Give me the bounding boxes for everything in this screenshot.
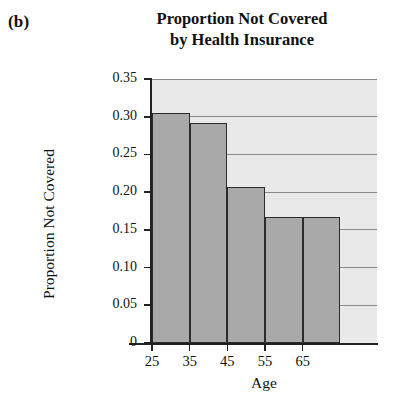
x-tick-label: 25	[132, 353, 172, 370]
y-tick-label: 0	[130, 334, 137, 350]
y-tick-label: 0.10	[113, 259, 138, 275]
y-tick	[144, 342, 151, 344]
y-tick	[144, 267, 151, 269]
x-axis-label: Age	[151, 374, 377, 392]
y-tick	[144, 116, 151, 118]
y-tick-label: 0.15	[113, 221, 138, 237]
x-tick-label: 65	[283, 353, 323, 370]
x-tick	[264, 343, 266, 351]
y-tick	[144, 191, 151, 193]
bar-series	[151, 79, 377, 343]
y-tick	[144, 78, 151, 80]
chart-title: Proportion Not Covered by Health Insuran…	[96, 8, 388, 50]
x-tick	[189, 343, 191, 351]
x-tick	[227, 343, 229, 351]
x-tick	[151, 343, 153, 351]
bar-45	[227, 187, 265, 343]
chart-title-line-2: by Health Insurance	[96, 29, 388, 50]
y-tick	[144, 304, 151, 306]
y-tick-label: 0.05	[113, 296, 138, 312]
x-tick-label: 35	[170, 353, 210, 370]
y-tick-label: 0.20	[113, 183, 138, 199]
bar-35	[190, 123, 228, 343]
x-tick	[302, 343, 304, 351]
bar-25	[152, 113, 190, 343]
bar-55	[265, 217, 303, 343]
y-tick	[144, 154, 151, 156]
y-tick-label: 0.35	[113, 70, 138, 86]
x-tick-label: 45	[207, 353, 247, 370]
y-tick-label: 0.25	[113, 145, 138, 161]
panel-label: (b)	[8, 12, 29, 32]
plot-area	[151, 79, 377, 343]
x-tick-label: 55	[245, 353, 285, 370]
bar-65	[303, 217, 341, 343]
y-tick	[144, 229, 151, 231]
y-tick-label: 0.30	[113, 108, 138, 124]
y-axis-label: Proportion Not Covered	[40, 109, 58, 339]
figure-panel-b: (b) Proportion Not Covered by Health Ins…	[0, 0, 396, 409]
x-axis-line	[129, 343, 378, 345]
chart-title-line-1: Proportion Not Covered	[96, 8, 388, 29]
